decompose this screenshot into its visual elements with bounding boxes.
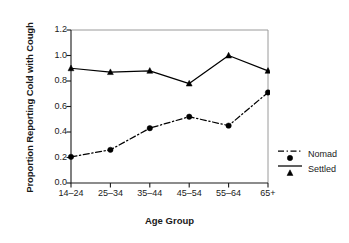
y-axis-tick-labels: 1.21.00.80.60.40.20.0 <box>40 0 67 243</box>
x-tick-label: 25–34 <box>98 188 123 198</box>
y-tick-label: 1.2 <box>43 25 67 34</box>
data-point <box>265 90 270 95</box>
y-axis-title: Proportion Reporting Cold with Cough <box>24 18 35 198</box>
circle-marker-icon <box>277 147 303 162</box>
y-tick-label: 0.6 <box>43 102 67 111</box>
plot-area <box>71 30 268 183</box>
y-tick-label: 0.2 <box>43 153 67 162</box>
legend: NomadSettled <box>277 147 347 177</box>
triangle-marker-icon <box>277 162 303 177</box>
series-line-nomad <box>71 92 268 156</box>
data-point <box>226 52 232 58</box>
data-point <box>108 147 113 152</box>
y-tick-label: 0.8 <box>43 76 67 85</box>
x-tick-label: 14–24 <box>58 188 83 198</box>
y-tick-label: 0.4 <box>43 127 67 136</box>
x-tick-label: 35–44 <box>137 188 162 198</box>
x-axis-tick-labels: 14–2425–3435–4445–5455–6465+ <box>0 188 349 204</box>
x-tick-label: 45–54 <box>177 188 202 198</box>
y-tick-label: 1.0 <box>43 51 67 60</box>
legend-label: Nomad <box>308 149 337 159</box>
data-point <box>187 114 192 119</box>
legend-label: Settled <box>308 164 336 174</box>
legend-item-nomad: Nomad <box>277 147 347 162</box>
plot-svg <box>65 29 270 190</box>
data-point <box>147 125 152 130</box>
chart-figure: Proportion Reporting Cold with Cough 1.2… <box>0 0 349 243</box>
x-tick-label: 65+ <box>260 188 275 198</box>
series-line-settled <box>71 56 268 84</box>
y-tick-label: 0.0 <box>43 178 67 187</box>
legend-item-settled: Settled <box>277 162 347 177</box>
data-point <box>226 123 231 128</box>
x-axis-title: Age Group <box>71 215 268 226</box>
x-tick-label: 55–64 <box>216 188 241 198</box>
data-point <box>68 154 73 159</box>
